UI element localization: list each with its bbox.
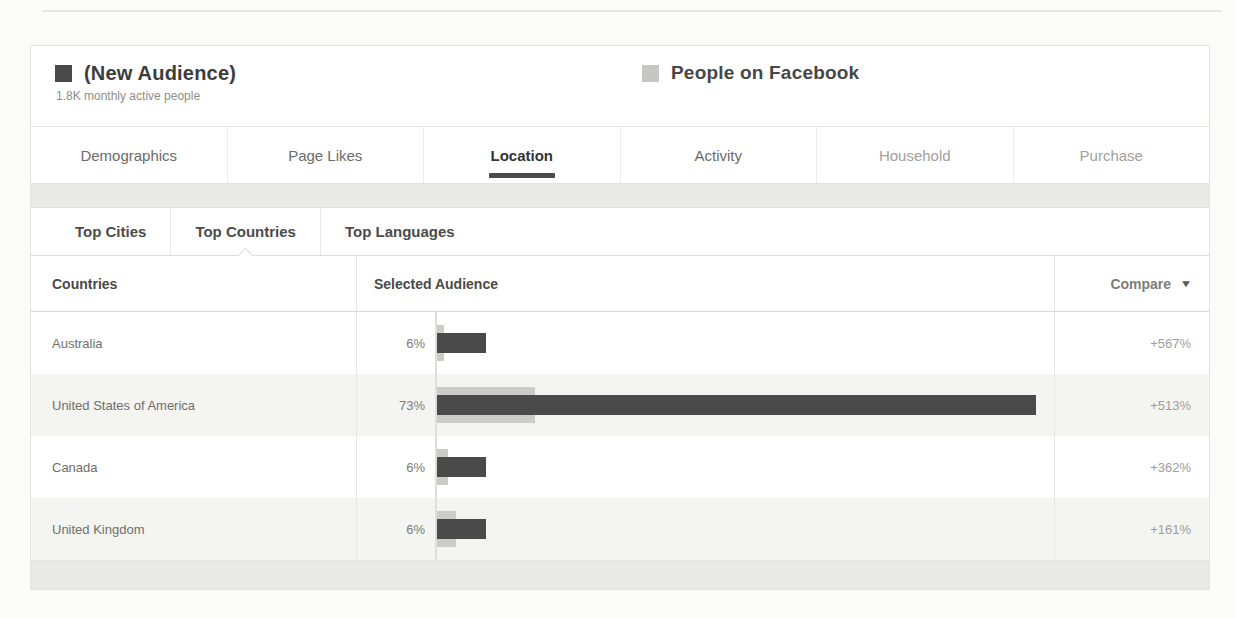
tab-household[interactable]: Household (816, 127, 1013, 183)
bar-chart-cell (435, 312, 1054, 374)
subtab-top-cities[interactable]: Top Cities (51, 208, 170, 255)
country-name: United Kingdom (31, 498, 356, 560)
tab-page-likes[interactable]: Page Likes (227, 127, 424, 183)
compare-value: +567% (1054, 312, 1209, 374)
legend: (New Audience) 1.8K monthly active peopl… (31, 46, 1209, 126)
tab-label: Household (879, 147, 951, 164)
table-row: Canada 6% +362% (31, 436, 1209, 498)
main-tab-bar: Demographics Page Likes Location Activit… (31, 126, 1209, 184)
table-row: Australia 6% +567% (31, 312, 1209, 374)
audience-percent-label: 6% (357, 460, 435, 475)
tab-label: Page Likes (288, 147, 362, 164)
tab-activity[interactable]: Activity (620, 127, 817, 183)
footer-band (31, 560, 1209, 589)
country-name: Canada (31, 436, 356, 498)
audience-insights-panel: (New Audience) 1.8K monthly active peopl… (30, 45, 1210, 590)
subtab-top-languages[interactable]: Top Languages (320, 208, 479, 255)
new-audience-label: (New Audience) (84, 62, 236, 85)
audience-bar (437, 519, 486, 539)
legend-new-audience: (New Audience) 1.8K monthly active peopl… (55, 62, 632, 103)
scan-artifact-line (42, 10, 1222, 12)
tab-purchase[interactable]: Purchase (1013, 127, 1210, 183)
legend-people-on-facebook: People on Facebook (632, 62, 1209, 84)
audience-percent-label: 73% (357, 398, 435, 413)
table-row: United States of America 73% +513% (31, 374, 1209, 436)
countries-table-body: Australia 6% +567% United States of Amer… (31, 312, 1209, 560)
bar-chart-cell (435, 374, 1054, 436)
divider-band (31, 184, 1209, 208)
subtab-top-countries[interactable]: Top Countries (170, 208, 320, 255)
compare-value: +161% (1054, 498, 1209, 560)
audience-cell: 6% (356, 436, 1054, 498)
monthly-active-people: 1.8K monthly active people (56, 89, 632, 103)
tab-label: Activity (694, 147, 742, 164)
audience-cell: 73% (356, 374, 1054, 436)
subtab-label: Top Cities (75, 223, 146, 240)
countries-column-header: Countries (31, 276, 356, 292)
table-row: United Kingdom 6% +161% (31, 498, 1209, 560)
facebook-swatch-icon (642, 65, 659, 82)
tab-label: Purchase (1080, 147, 1143, 164)
tab-location[interactable]: Location (423, 127, 620, 183)
compare-dropdown-button[interactable]: Compare ▼ (1110, 276, 1191, 292)
tab-demographics[interactable]: Demographics (31, 127, 227, 183)
audience-bar (437, 395, 1036, 415)
table-header: Countries Selected Audience Compare ▼ (31, 256, 1209, 312)
compare-header-label: Compare (1110, 276, 1171, 292)
audience-bar (437, 457, 486, 477)
country-name: United States of America (31, 374, 356, 436)
audience-bar (437, 333, 486, 353)
audience-percent-label: 6% (357, 522, 435, 537)
new-audience-swatch-icon (55, 65, 72, 82)
country-name: Australia (31, 312, 356, 374)
subtab-label: Top Countries (195, 223, 296, 240)
audience-percent-label: 6% (357, 336, 435, 351)
tab-label: Location (491, 147, 554, 164)
selected-audience-header-label: Selected Audience (374, 276, 498, 292)
audience-cell: 6% (356, 312, 1054, 374)
bar-chart-cell (435, 498, 1054, 560)
subtab-label: Top Languages (345, 223, 455, 240)
tab-label: Demographics (80, 147, 177, 164)
compare-column-header: Compare ▼ (1054, 256, 1209, 311)
audience-cell: 6% (356, 498, 1054, 560)
selected-audience-column-header: Selected Audience (356, 256, 1054, 311)
active-tab-underline (489, 173, 555, 178)
chevron-down-icon: ▼ (1180, 278, 1193, 289)
location-subtab-bar: Top Cities Top Countries Top Languages (31, 208, 1209, 256)
compare-value: +513% (1054, 374, 1209, 436)
people-on-facebook-label: People on Facebook (671, 62, 859, 84)
bar-chart-cell (435, 436, 1054, 498)
compare-value: +362% (1054, 436, 1209, 498)
